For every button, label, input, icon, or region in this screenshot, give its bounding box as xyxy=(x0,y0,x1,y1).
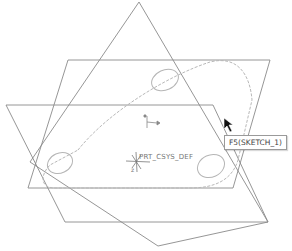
csys-z-axis-label: z xyxy=(131,166,134,173)
sketch-hole-top[interactable] xyxy=(148,65,182,95)
sketch-hole-left[interactable] xyxy=(44,148,76,177)
csys-label: PRT_CSYS_DEF xyxy=(139,153,193,161)
sketch-outline[interactable] xyxy=(43,61,252,188)
graphics-viewport[interactable]: PRT_CSYS_DEF z F5(SKETCH_1) xyxy=(0,0,292,251)
model-geometry xyxy=(0,0,292,251)
center-point-icon xyxy=(144,115,160,128)
preselection-tooltip: F5(SKETCH_1) xyxy=(224,135,287,150)
sketch-hole-right[interactable] xyxy=(194,150,229,182)
